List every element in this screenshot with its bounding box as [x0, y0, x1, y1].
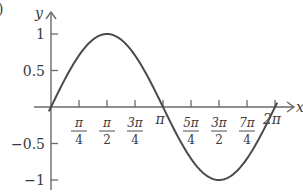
axes — [34, 12, 294, 190]
y-tick-label: −1 — [24, 172, 45, 188]
x-tick-denominator: 4 — [75, 133, 83, 147]
x-tick-numerator: 5π — [183, 116, 200, 130]
y-tick-label: 1 — [36, 26, 45, 42]
x-tick-denominator: 4 — [131, 133, 139, 147]
x-tick-numerator: π — [102, 116, 112, 130]
x-tick-numerator: π — [74, 116, 84, 130]
y-tick-label: 0.5 — [23, 63, 45, 79]
y-tick-label: −0.5 — [11, 136, 45, 152]
x-tick-denominator: 4 — [243, 133, 251, 147]
x-tick-numerator: 3π — [127, 116, 144, 130]
y-axis-label: y — [34, 5, 44, 21]
x-tick-denominator: 2 — [103, 133, 111, 147]
x-tick-denominator: 2 — [215, 133, 223, 147]
sine-chart: ) 10.5−0.5−1 π4π23π4π5π43π27π42π x y — [0, 0, 303, 194]
x-tick-label: π — [154, 111, 165, 127]
x-tick-denominator: 4 — [187, 133, 195, 147]
x-tick-numerator: 7π — [239, 116, 256, 130]
panel-label-fragment: ) — [0, 1, 3, 17]
x-tick-numerator: 3π — [211, 116, 228, 130]
x-axis-label: x — [296, 99, 303, 115]
